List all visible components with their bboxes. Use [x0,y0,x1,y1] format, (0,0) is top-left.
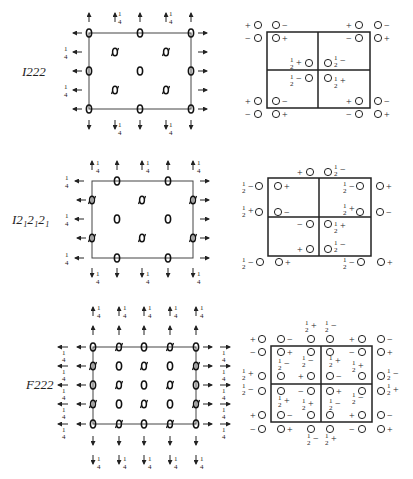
svg-text:4: 4 [64,91,68,99]
svg-text:4: 4 [222,413,226,421]
svg-text:+: + [245,20,251,31]
svg-text:2: 2 [329,361,333,369]
svg-text:4: 4 [169,129,173,137]
svg-text:+: + [349,410,355,421]
svg-text:1: 1 [65,251,69,259]
svg-text:+: + [346,96,352,107]
svg-text:+: + [287,424,293,435]
svg-text:−: − [349,181,355,192]
svg-text:4: 4 [65,182,69,190]
svg-text:−: − [248,181,254,192]
svg-text:+: + [349,203,355,214]
svg-text:−: − [349,257,355,268]
svg-text:1: 1 [118,10,122,18]
svg-text:4: 4 [197,278,201,286]
svg-text:4: 4 [96,278,100,286]
svg-text:2: 2 [387,374,391,382]
svg-text:−: − [298,386,304,397]
svg-text:2: 2 [334,227,338,235]
svg-text:4: 4 [97,463,101,471]
svg-text:−: − [384,20,390,31]
symmetry-diagram: 14 14 14 14 14 14 14 14 14 [65,159,209,286]
svg-text:−: − [349,347,355,358]
svg-text:1: 1 [174,304,178,312]
svg-text:2: 2 [334,61,338,69]
svg-text:2: 2 [307,439,311,447]
svg-text:2: 2 [343,187,347,195]
svg-text:+: + [250,334,256,345]
svg-text:−: − [245,109,251,120]
svg-text:+: + [340,75,346,86]
svg-text:−: − [287,410,293,421]
svg-text:4: 4 [62,394,66,402]
svg-text:4: 4 [146,278,150,286]
svg-text:+: + [387,257,393,268]
svg-text:+: + [335,355,341,366]
svg-text:1: 1 [148,455,152,463]
svg-text:2: 2 [278,364,282,372]
svg-text:4: 4 [96,167,100,175]
svg-text:2: 2 [242,374,246,382]
svg-text:4: 4 [174,463,178,471]
svg-text:2: 2 [302,361,306,369]
svg-text:−: − [393,368,399,379]
svg-text:1: 1 [64,83,68,91]
symmetry-diagram: 14 14 14 14 14 14 [64,10,207,137]
svg-text:2: 2 [352,366,356,374]
svg-text:1: 1 [118,121,122,129]
svg-text:1: 1 [174,455,178,463]
svg-text:−: − [297,219,303,230]
svg-text:−: − [250,347,256,358]
svg-text:2: 2 [325,326,329,334]
svg-text:−: − [358,392,364,403]
position-diagram: 12+ 12− + − + − − + − + 12− 12− 12+ 12+ [242,319,399,447]
svg-text:4: 4 [200,312,204,320]
svg-text:4: 4 [65,220,69,228]
svg-text:−: − [284,358,290,369]
svg-text:+: + [297,167,303,178]
svg-text:4: 4 [123,312,127,320]
svg-text:2: 2 [242,187,246,195]
svg-text:+: + [284,395,290,406]
svg-text:4: 4 [222,433,226,441]
svg-text:+: + [250,410,256,421]
svg-text:4: 4 [62,433,66,441]
svg-text:−: − [284,207,290,218]
panel-label: I222 [21,64,46,79]
svg-text:−: − [248,257,254,268]
svg-text:1: 1 [146,270,150,278]
svg-text:−: − [384,96,390,107]
svg-text:2: 2 [343,263,347,271]
svg-text:1: 1 [96,159,100,167]
svg-text:1: 1 [123,304,127,312]
svg-text:−: − [386,207,392,218]
svg-text:−: − [287,334,293,345]
svg-text:4: 4 [146,167,150,175]
svg-text:−: − [282,96,288,107]
svg-text:4: 4 [148,463,152,471]
svg-text:2: 2 [290,63,294,71]
svg-text:4: 4 [62,356,66,364]
svg-text:4: 4 [222,394,226,402]
svg-text:−: − [340,55,346,66]
svg-text:−: − [248,384,254,395]
svg-text:−: − [335,398,341,409]
svg-text:+: + [296,57,302,68]
svg-text:2: 2 [329,404,333,412]
svg-text:4: 4 [118,18,122,26]
position-diagram: + − − + + − − + + − − + + − − + 12+ [245,20,390,120]
svg-text:1: 1 [65,174,69,182]
space-group-figure: I222 [0,0,413,479]
svg-text:4: 4 [200,463,204,471]
svg-text:+: + [384,109,390,120]
svg-text:4: 4 [169,18,173,26]
svg-text:1: 1 [169,121,173,129]
svg-text:−: − [346,109,352,120]
svg-text:4: 4 [174,312,178,320]
svg-text:4: 4 [197,167,201,175]
svg-text:4: 4 [62,413,66,421]
svg-text:+: + [336,386,342,397]
svg-text:4: 4 [123,463,127,471]
svg-text:+: + [282,109,288,120]
panel-label: I2₁2₁2₁ [11,212,49,227]
